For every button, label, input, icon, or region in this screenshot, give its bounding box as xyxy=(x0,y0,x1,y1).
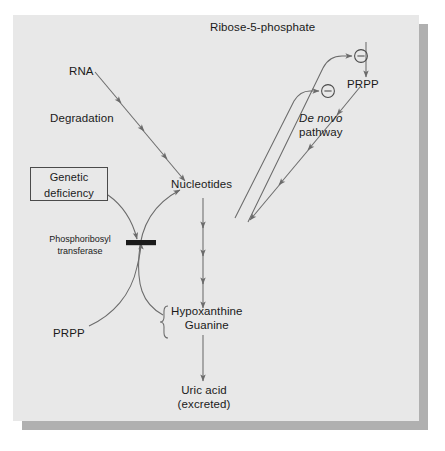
edge-genetic-deficiency-to-block xyxy=(108,195,137,239)
label-degradation: Degradation xyxy=(50,112,114,126)
brace-bases xyxy=(160,306,168,338)
edge-rna-to-nucleotides xyxy=(95,72,185,181)
label-pathway: pathway xyxy=(299,126,343,140)
inhibition-lower-icon xyxy=(322,85,335,98)
label-uric-acid-excreted: (excreted) xyxy=(168,398,240,412)
node-uric-acid: Uric acid (excreted) xyxy=(168,384,240,411)
label-guanine: Guanine xyxy=(171,319,243,333)
node-hypoxanthine-guanine: Hypoxanthine Guanine xyxy=(171,305,243,332)
enzyme-block-bar xyxy=(126,240,156,245)
edge-bases-to-nucleotides-salvage xyxy=(139,190,180,315)
label-genetic-deficiency-line2: deficiency xyxy=(31,184,107,200)
label-de-novo-pathway: De novo pathway xyxy=(299,112,343,139)
node-rna: RNA xyxy=(69,65,94,79)
edge-feedback-upper xyxy=(248,56,352,222)
diagram-panel: Ribose-5-phosphate PRPP RNA Degradation … xyxy=(13,15,419,421)
label-de-novo: De novo xyxy=(299,112,343,126)
label-phosphoribosyl-transferase: Phosphoribosyl transferase xyxy=(33,234,127,257)
node-prpp-bottom: PRPP xyxy=(53,327,85,341)
pathway-figure: Ribose-5-phosphate PRPP RNA Degradation … xyxy=(0,0,445,451)
label-phosphoribosyl-transferase-line2: transferase xyxy=(33,246,127,258)
genetic-deficiency-box: Genetic deficiency xyxy=(30,167,108,201)
label-phosphoribosyl-transferase-line1: Phosphoribosyl xyxy=(33,234,127,246)
label-hypoxanthine: Hypoxanthine xyxy=(171,305,243,319)
edge-prpp-to-nucleotides-de-novo xyxy=(250,87,360,220)
node-nucleotides: Nucleotides xyxy=(171,178,232,192)
node-ribose-5-phosphate: Ribose-5-phosphate xyxy=(210,21,315,35)
edge-feedback-lower xyxy=(235,91,319,218)
node-prpp-top: PRPP xyxy=(347,78,379,92)
label-genetic-deficiency-line1: Genetic xyxy=(31,168,107,184)
label-uric-acid: Uric acid xyxy=(168,384,240,398)
